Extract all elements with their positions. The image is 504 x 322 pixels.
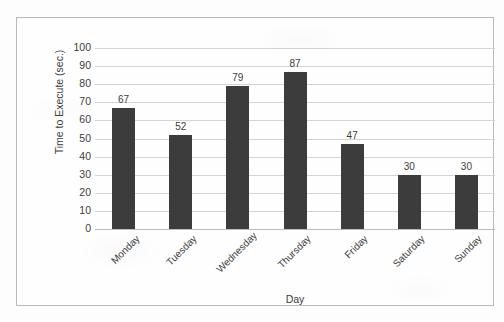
chart-frame: Time to Execute (sec.) 01020304050607080… [16,17,494,306]
bar-value-label: 52 [161,121,201,132]
y-axis-tick-label: 20 [51,187,91,198]
bar-value-label: 79 [218,72,258,83]
x-axis-tick-label: Monday [100,233,142,275]
y-axis-tick-label: 70 [51,96,91,107]
y-axis-tick-label: 100 [51,42,91,53]
bar[interactable] [169,135,192,229]
y-axis-tick-label: 90 [51,60,91,71]
y-axis-tick-label: 30 [51,169,91,180]
chart-screenshot: Time to Execute (sec.) 01020304050607080… [0,0,504,322]
x-axis-tick-label: Sunday [442,233,484,275]
bar[interactable] [455,175,478,229]
x-axis-tick-label: Thursday [271,233,313,275]
y-axis-tick-label: 80 [51,78,91,89]
gridline [95,229,495,230]
bar-value-label: 47 [332,130,372,141]
x-axis-tick-label: Tuesday [157,233,199,275]
bar-value-label: 30 [446,161,486,172]
y-axis-tick-label: 10 [51,205,91,216]
x-axis-tick-label: Saturday [385,233,427,275]
bar[interactable] [112,108,135,229]
plot-area: 67527987473030 [95,48,495,229]
x-axis-title: Day [95,293,495,305]
x-axis-tick-labels: MondayTuesdayWednesdayThursdayFridaySatu… [95,233,495,293]
y-axis-tick-label: 0 [51,223,91,234]
y-axis-tick-labels: 0102030405060708090100 [45,48,91,229]
y-axis-tick-label: 60 [51,114,91,125]
bar[interactable] [226,86,249,229]
x-axis-tick-label: Friday [328,233,370,275]
bar-value-label: 67 [104,94,144,105]
bar[interactable] [284,72,307,229]
bar[interactable] [341,144,364,229]
x-axis-tick-label: Wednesday [214,233,256,275]
y-axis-tick-label: 50 [51,133,91,144]
bar-value-label: 30 [389,161,429,172]
y-axis-tick-label: 40 [51,151,91,162]
gridline [95,48,495,49]
bar-value-label: 87 [275,58,315,69]
bar[interactable] [398,175,421,229]
